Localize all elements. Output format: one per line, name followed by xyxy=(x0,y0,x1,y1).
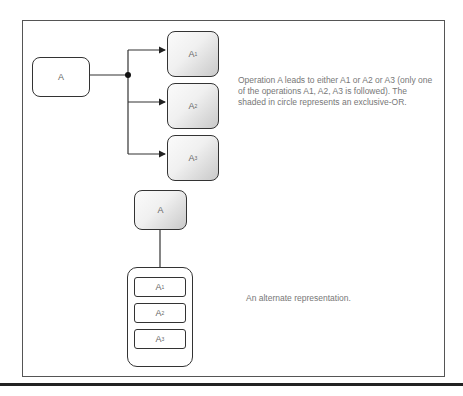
top-description: Operation A leads to either A1 or A2 or … xyxy=(238,75,433,108)
source-box-a-alt: A xyxy=(134,190,187,230)
target-box-a2: A2 xyxy=(167,83,219,129)
group-item-a1: A1 xyxy=(134,277,186,297)
target-box-a3: A3 xyxy=(167,135,219,181)
bottom-description: An alternate representation. xyxy=(246,293,351,304)
group-item-a3: A3 xyxy=(134,329,186,349)
source-box-a: A xyxy=(32,57,90,97)
exclusive-or-dot xyxy=(125,72,131,78)
target-box-a1: A1 xyxy=(167,31,219,77)
bottom-rule xyxy=(0,383,463,386)
group-item-a2: A2 xyxy=(134,303,186,323)
